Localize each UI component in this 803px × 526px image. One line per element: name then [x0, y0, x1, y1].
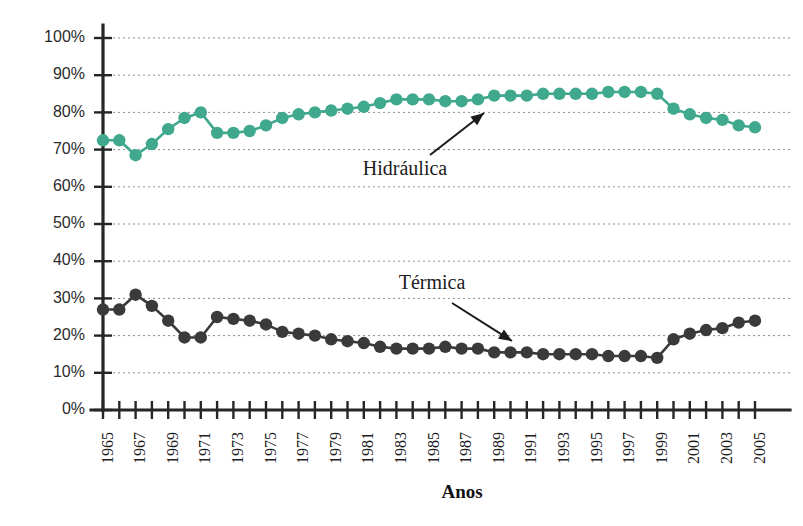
data-point — [749, 121, 761, 133]
y-axis-tick-label: 30% — [53, 289, 85, 306]
data-point — [684, 108, 696, 120]
x-axis-tick-label: 1987 — [457, 432, 474, 464]
data-point — [178, 331, 190, 343]
data-point — [276, 326, 288, 338]
x-axis-tick-label: 2001 — [685, 432, 702, 464]
data-point — [521, 89, 533, 101]
x-axis-tick-label: 1965 — [99, 432, 116, 464]
data-point — [716, 322, 728, 334]
data-point — [553, 348, 565, 360]
data-point — [733, 119, 745, 131]
data-point — [341, 335, 353, 347]
data-point — [390, 342, 402, 354]
x-axis-tick-label: 1995 — [588, 432, 605, 464]
data-point — [162, 315, 174, 327]
x-axis-tick-labels: 1965196719691971197319751977197919811983… — [99, 432, 768, 464]
data-point — [667, 102, 679, 114]
data-point — [700, 324, 712, 336]
y-axis-tick-label: 70% — [53, 140, 85, 157]
data-point — [618, 86, 630, 98]
data-point — [390, 93, 402, 105]
data-point — [618, 350, 630, 362]
data-point — [129, 149, 141, 161]
data-point — [325, 333, 337, 345]
data-point — [358, 101, 370, 113]
data-point — [292, 108, 304, 120]
data-point — [146, 300, 158, 312]
x-axis-tick-label: 1989 — [490, 432, 507, 464]
annotation-arrow-head — [470, 113, 484, 125]
y-axis-tick-label: 20% — [53, 326, 85, 343]
y-axis-tick-label: 60% — [53, 177, 85, 194]
x-axis-tick-label: 1979 — [327, 432, 344, 464]
data-point — [358, 337, 370, 349]
y-axis-tick-label: 100% — [44, 28, 85, 45]
data-point — [244, 315, 256, 327]
y-axis-tick-label: 40% — [53, 251, 85, 268]
data-point — [570, 348, 582, 360]
line-chart: 0%10%20%30%40%50%60%70%80%90%100% 196519… — [0, 0, 803, 526]
data-point — [488, 89, 500, 101]
series-trmica — [97, 288, 761, 364]
data-point — [325, 104, 337, 116]
data-point — [651, 88, 663, 100]
axes — [91, 25, 790, 410]
x-axis-tick-label: 1971 — [196, 432, 213, 464]
data-point — [244, 125, 256, 137]
data-point — [716, 114, 728, 126]
data-point — [488, 346, 500, 358]
data-point — [374, 97, 386, 109]
x-axis-tick-label: 1983 — [392, 432, 409, 464]
data-point — [146, 138, 158, 150]
x-axis-tick-label: 2003 — [718, 432, 735, 464]
data-point — [667, 333, 679, 345]
data-point — [227, 127, 239, 139]
data-point — [635, 350, 647, 362]
data-point — [178, 112, 190, 124]
data-point — [276, 112, 288, 124]
x-axis-tick-label: 1969 — [164, 432, 181, 464]
data-point — [537, 88, 549, 100]
data-point — [260, 318, 272, 330]
data-point — [439, 95, 451, 107]
y-axis-tick-label: 80% — [53, 103, 85, 120]
data-point — [455, 95, 467, 107]
data-point — [537, 348, 549, 360]
data-point — [553, 88, 565, 100]
data-point — [602, 350, 614, 362]
series-annotations: HidráulicaTérmica — [363, 113, 512, 341]
x-axis-tick-label: 1981 — [359, 432, 376, 464]
data-point — [195, 331, 207, 343]
data-point — [749, 315, 761, 327]
data-point — [211, 311, 223, 323]
data-point — [341, 102, 353, 114]
data-point — [292, 328, 304, 340]
data-point — [162, 123, 174, 135]
data-point — [700, 112, 712, 124]
x-axis-tick-label: 2005 — [751, 432, 768, 464]
data-point — [97, 303, 109, 315]
data-point — [455, 342, 467, 354]
y-axis-tick-labels: 0%10%20%30%40%50%60%70%80%90%100% — [44, 28, 85, 417]
data-point — [602, 86, 614, 98]
data-point — [586, 88, 598, 100]
annotation-label-trmica: Térmica — [399, 271, 466, 293]
data-series — [97, 86, 761, 364]
chart-container: 0%10%20%30%40%50%60%70%80%90%100% 196519… — [0, 0, 803, 526]
data-point — [211, 127, 223, 139]
data-point — [733, 316, 745, 328]
y-axis-tick-label: 0% — [62, 400, 85, 417]
data-point — [407, 93, 419, 105]
data-point — [260, 119, 272, 131]
x-axis-tick-label: 1993 — [555, 432, 572, 464]
x-axis-tick-label: 1997 — [620, 432, 637, 464]
data-point — [97, 134, 109, 146]
data-point — [407, 342, 419, 354]
data-point — [472, 93, 484, 105]
data-point — [504, 346, 516, 358]
data-point — [521, 346, 533, 358]
x-axis-tick-label: 1985 — [425, 432, 442, 464]
data-point — [651, 352, 663, 364]
data-point — [570, 88, 582, 100]
data-point — [227, 313, 239, 325]
